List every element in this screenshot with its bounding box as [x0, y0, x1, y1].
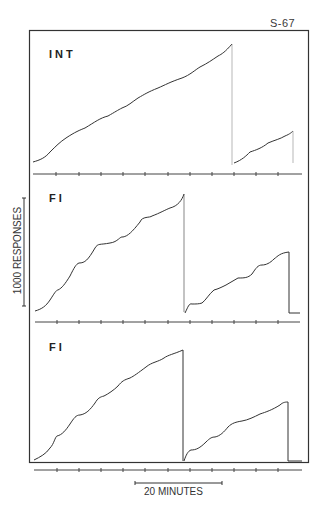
- panel-label-fi-2: FI: [49, 341, 65, 353]
- panel-label-int: INT: [49, 48, 76, 60]
- panel-label-fi-1: FI: [49, 192, 65, 204]
- y-axis-scale-label: 1000 RESPONSES: [12, 196, 23, 306]
- panel-int: [33, 44, 302, 174]
- panel-fi-1: [35, 194, 300, 322]
- panel-fi-2: [34, 350, 302, 470]
- cumulative-record-chart: [0, 0, 321, 509]
- x-axis-scale-label: 20 MINUTES: [144, 486, 203, 497]
